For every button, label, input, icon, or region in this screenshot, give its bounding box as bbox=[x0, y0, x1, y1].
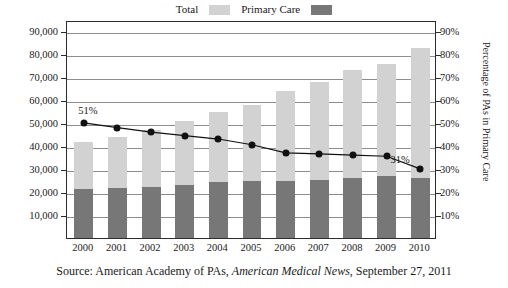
axis-tick-mark bbox=[61, 170, 66, 171]
legend-swatch-primary-care bbox=[311, 5, 332, 15]
y-axis-right-tick-label: 20% bbox=[440, 188, 474, 199]
y-axis-right-tick-label: 30% bbox=[440, 165, 474, 176]
y-axis-right-tick-label: 60% bbox=[440, 96, 474, 107]
axis-tick-mark bbox=[61, 32, 66, 33]
axis-tick-mark bbox=[436, 147, 441, 148]
axis-tick-mark bbox=[61, 101, 66, 102]
line-data-point bbox=[80, 119, 87, 126]
data-point-label: 51% bbox=[78, 105, 97, 116]
legend-swatch-total bbox=[209, 5, 230, 15]
y-axis-right-tick-label: 90% bbox=[440, 27, 474, 38]
y-axis-right-tick-label: 80% bbox=[440, 50, 474, 61]
line-series-layer: 51%31% bbox=[67, 22, 435, 238]
line-data-point bbox=[148, 129, 155, 136]
y-axis-left-tick-label: 20,000 bbox=[0, 188, 58, 199]
axis-tick-mark bbox=[61, 78, 66, 79]
axis-tick-mark bbox=[436, 170, 441, 171]
x-axis-tick-label: 2010 bbox=[399, 243, 439, 254]
source-prefix: Source: American Academy of PAs, bbox=[56, 264, 232, 278]
y-axis-left-tick-label: 50,000 bbox=[0, 119, 58, 130]
chart-figure: Total Primary Care Number of PAs Percent… bbox=[0, 0, 508, 288]
y-axis-left-tick-label: 70,000 bbox=[0, 73, 58, 84]
line-data-point bbox=[417, 165, 424, 172]
line-data-point bbox=[316, 150, 323, 157]
y-axis-left-tick-label: 90,000 bbox=[0, 27, 58, 38]
axis-tick-mark bbox=[61, 193, 66, 194]
axis-tick-mark bbox=[436, 55, 441, 56]
trend-line bbox=[67, 22, 437, 240]
y-axis-right-tick-label: 50% bbox=[440, 119, 474, 130]
axis-tick-mark bbox=[61, 216, 66, 217]
legend-label-primary-care: Primary Care bbox=[241, 4, 300, 15]
axis-tick-mark bbox=[436, 216, 441, 217]
plot-area: 51%31% bbox=[66, 21, 436, 239]
axis-tick-mark bbox=[61, 124, 66, 125]
data-point-label: 31% bbox=[391, 154, 410, 165]
line-data-point bbox=[181, 132, 188, 139]
source-publication: American Medical News bbox=[232, 264, 350, 278]
y-axis-left-tick-label: 30,000 bbox=[0, 165, 58, 176]
y-axis-left-tick-label: 80,000 bbox=[0, 50, 58, 61]
source-caption: Source: American Academy of PAs, America… bbox=[0, 265, 508, 277]
axis-tick-mark bbox=[436, 193, 441, 194]
line-data-point bbox=[215, 136, 222, 143]
line-data-point bbox=[349, 152, 356, 159]
line-data-point bbox=[282, 149, 289, 156]
axis-tick-mark bbox=[436, 32, 441, 33]
axis-tick-mark bbox=[436, 101, 441, 102]
y-axis-left-tick-label: 10,000 bbox=[0, 211, 58, 222]
axis-tick-mark bbox=[436, 78, 441, 79]
axis-tick-mark bbox=[61, 147, 66, 148]
line-data-point bbox=[383, 153, 390, 160]
y-axis-left-tick-label: 60,000 bbox=[0, 96, 58, 107]
chart-legend: Total Primary Care bbox=[0, 4, 508, 15]
line-data-point bbox=[114, 124, 121, 131]
axis-tick-mark bbox=[61, 55, 66, 56]
y-axis-right-tick-label: 40% bbox=[440, 142, 474, 153]
y-axis-left-tick-label: 40,000 bbox=[0, 142, 58, 153]
line-data-point bbox=[249, 141, 256, 148]
legend-label-total: Total bbox=[176, 4, 198, 15]
axis-tick-mark bbox=[436, 124, 441, 125]
y-axis-right-tick-label: 70% bbox=[440, 73, 474, 84]
y-axis-right-tick-label: 10% bbox=[440, 211, 474, 222]
source-suffix: , September 27, 2011 bbox=[350, 264, 452, 278]
y-axis-right-title: Percentage of PAs in Primary Care bbox=[481, 42, 492, 181]
